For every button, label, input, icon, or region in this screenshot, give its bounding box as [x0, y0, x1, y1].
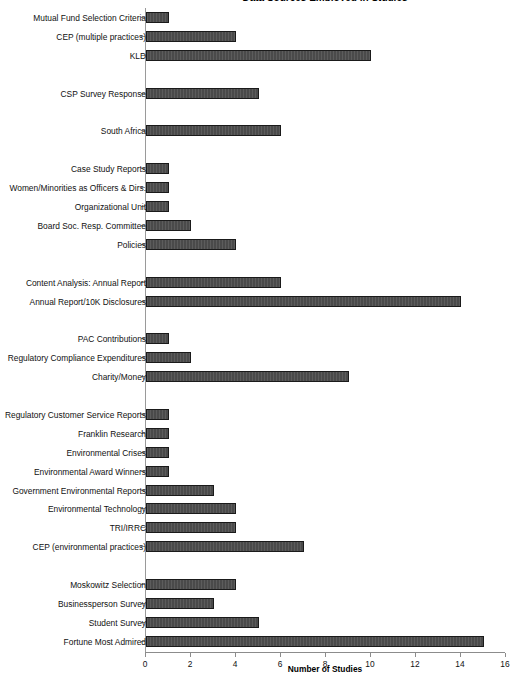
bar-row: Student Survey [0, 616, 512, 630]
spacer-row [0, 559, 512, 573]
bar [146, 125, 281, 136]
bar-row: CEP (multiple practices) [0, 30, 512, 44]
category-label: Environmental Crises [66, 447, 146, 459]
category-label: Annual Report/10K Disclosures [30, 296, 146, 308]
bar [146, 466, 169, 477]
category-label: Charity/Money [92, 371, 146, 383]
bar-row: TRI/IRRC [0, 521, 512, 535]
bar [146, 163, 169, 174]
bar [146, 409, 169, 420]
category-label: CEP (environmental practices) [33, 541, 146, 553]
bar [146, 31, 236, 42]
bar-row: Women/Minorities as Officers & Dirs. [0, 181, 512, 195]
bar [146, 220, 191, 231]
bar [146, 201, 169, 212]
bar [146, 88, 259, 99]
bar-row: Businessperson Survey [0, 597, 512, 611]
bar-row: Environmental Award Winners [0, 465, 512, 479]
bar [146, 182, 169, 193]
bar-row: Government Environmental Reports [0, 484, 512, 498]
x-axis-tick [415, 653, 416, 657]
bar-chart: Data Sources Employed in Studies Mutual … [0, 0, 512, 682]
spacer-row [0, 106, 512, 120]
spacer-row [0, 68, 512, 82]
x-axis-title: Number of Studies [145, 664, 505, 674]
category-label: PAC Contributions [78, 333, 146, 345]
bar [146, 541, 304, 552]
category-label: Regulatory Customer Service Reports [5, 409, 146, 421]
category-label: Businessperson Survey [58, 598, 146, 610]
bar-row: Charity/Money [0, 370, 512, 384]
bar-row: PAC Contributions [0, 332, 512, 346]
bar [146, 598, 214, 609]
bar-row: Environmental Crises [0, 446, 512, 460]
spacer-row [0, 257, 512, 271]
bar [146, 277, 281, 288]
bar-row: Annual Report/10K Disclosures [0, 295, 512, 309]
bar-row: Policies [0, 238, 512, 252]
x-axis-tick [280, 653, 281, 657]
x-axis-tick [145, 653, 146, 657]
category-label: Fortune Most Admired [64, 636, 146, 648]
bar-row: Moskowitz Selection [0, 578, 512, 592]
x-axis-tick [190, 653, 191, 657]
x-axis-tick [235, 653, 236, 657]
x-axis-tick [505, 653, 506, 657]
bar [146, 428, 169, 439]
category-label: Mutual Fund Selection Criteria [33, 12, 146, 24]
bar [146, 50, 371, 61]
x-axis-tick [370, 653, 371, 657]
bar-row: CSP Survey Response [0, 87, 512, 101]
category-label: TRI/IRRC [110, 522, 146, 534]
category-label: Women/Minorities as Officers & Dirs. [9, 182, 146, 194]
category-label: Student Survey [89, 617, 146, 629]
spacer-row [0, 143, 512, 157]
category-label: Board Soc. Resp. Committee [38, 220, 146, 232]
category-label: Franklin Research [78, 428, 146, 440]
category-label: Environmental Award Winners [34, 466, 146, 478]
bar [146, 239, 236, 250]
bar-row: Environmental Technology [0, 502, 512, 516]
bar-row: South Africa [0, 124, 512, 138]
spacer-row [0, 389, 512, 403]
bar [146, 485, 214, 496]
category-label: Environmental Technology [48, 503, 146, 515]
bar-row: KLD [0, 49, 512, 63]
category-label: Organizational Unit [75, 201, 146, 213]
x-axis-tick [460, 653, 461, 657]
category-label: Moskowitz Selection [70, 579, 146, 591]
bar [146, 617, 259, 628]
bar-row: CEP (environmental practices) [0, 540, 512, 554]
bar [146, 636, 484, 647]
bar-row: Board Soc. Resp. Committee [0, 219, 512, 233]
chart-title: Data Sources Employed in Studies [145, 0, 505, 1]
bar-row: Content Analysis: Annual Report [0, 276, 512, 290]
bar-row: Case Study Reports [0, 162, 512, 176]
category-label: Content Analysis: Annual Report [26, 277, 146, 289]
bar [146, 447, 169, 458]
bar [146, 522, 236, 533]
bar-row: Regulatory Compliance Expenditures [0, 351, 512, 365]
bar-row: Regulatory Customer Service Reports [0, 408, 512, 422]
category-label: CEP (multiple practices) [56, 31, 146, 43]
category-label: KLD [130, 50, 146, 62]
category-label: Government Environmental Reports [12, 485, 146, 497]
spacer-row [0, 313, 512, 327]
bar [146, 296, 461, 307]
bar [146, 503, 236, 514]
category-label: CSP Survey Response [61, 88, 147, 100]
category-label: Policies [117, 239, 146, 251]
bar-row: Mutual Fund Selection Criteria [0, 11, 512, 25]
bar [146, 371, 349, 382]
bar [146, 579, 236, 590]
category-label: Case Study Reports [71, 163, 146, 175]
plot-area: Mutual Fund Selection CriteriaCEP (multi… [0, 8, 512, 652]
category-label: South Africa [101, 125, 146, 137]
bar [146, 12, 169, 23]
bar-row: Franklin Research [0, 427, 512, 441]
bar [146, 352, 191, 363]
bar-row: Fortune Most Admired [0, 635, 512, 649]
category-label: Regulatory Compliance Expenditures [8, 352, 146, 364]
bar-row: Organizational Unit [0, 200, 512, 214]
x-axis-tick [325, 653, 326, 657]
